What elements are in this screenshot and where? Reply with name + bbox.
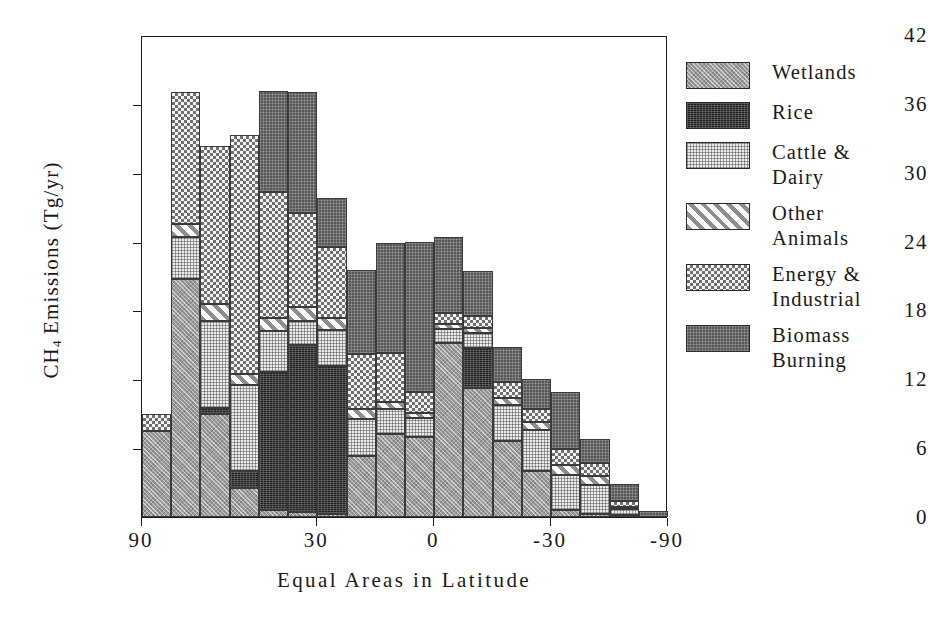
bar-segment-other — [317, 318, 346, 329]
bar-segment-wetlands — [376, 434, 405, 517]
bar-segment-energy — [463, 316, 492, 327]
bar-segment-wetlands — [288, 512, 317, 517]
bar-segment-cattle — [288, 321, 317, 345]
bar-segment-other — [551, 465, 580, 474]
x-axis-tick — [316, 518, 317, 526]
bar-stack — [580, 439, 609, 517]
bar-segment-wetlands — [434, 343, 463, 517]
bar-segment-energy — [434, 313, 463, 324]
bar-stack — [288, 92, 317, 517]
chart-root: CH4 Emissions (Tg/yr) 06121824303642 903… — [0, 0, 928, 620]
bar-segment-cattle — [493, 405, 522, 442]
bar-segment-other — [463, 328, 492, 334]
bar-segment-cattle — [230, 385, 259, 471]
bar-segment-biomass — [317, 198, 346, 247]
bar-segment-biomass — [610, 484, 639, 501]
bar-segment-biomass — [434, 237, 463, 313]
bar-segment-cattle — [200, 321, 229, 408]
bar-segment-biomass — [522, 379, 551, 409]
bar-segment-rice — [259, 372, 288, 510]
bar-segment-cattle — [259, 331, 288, 372]
y-axis-title-prefix: CH — [39, 347, 63, 379]
bar-segment-wetlands — [522, 471, 551, 517]
bar-segment-biomass — [580, 439, 609, 463]
bar-segment-wetlands — [610, 515, 639, 517]
bar-segment-energy — [610, 501, 639, 507]
bar-stack — [347, 270, 376, 517]
y-axis-title: CH4 Emissions (Tg/yr) — [39, 90, 69, 450]
bars-container — [142, 37, 666, 517]
biomass-swatch — [686, 325, 750, 352]
legend-item: Wetlands — [686, 60, 922, 89]
bar-stack — [259, 91, 288, 517]
bar-segment-energy — [522, 409, 551, 422]
bar-segment-other — [434, 324, 463, 329]
bar-segment-wetlands — [551, 510, 580, 517]
bar-segment-wetlands — [142, 431, 171, 517]
bar-segment-energy — [317, 247, 346, 318]
bar-stack — [376, 243, 405, 517]
bar-stack — [493, 347, 522, 517]
plot-area — [141, 36, 667, 518]
bar-segment-biomass — [551, 392, 580, 449]
bar-segment-wetlands — [493, 441, 522, 517]
bar-segment-rice — [200, 408, 229, 414]
x-axis-tick-label: 30 — [261, 528, 371, 553]
legend-item-label: Wetlands — [772, 60, 857, 85]
rice-swatch — [686, 102, 750, 129]
bar-segment-cattle — [463, 333, 492, 348]
bar-segment-rice — [317, 366, 346, 514]
cattle-swatch — [686, 142, 750, 169]
x-axis-tick — [667, 518, 668, 526]
bar-segment-other — [347, 409, 376, 419]
bar-stack — [405, 242, 434, 517]
bar-stack — [639, 511, 668, 517]
bar-segment-rice — [463, 348, 492, 388]
x-axis-tick — [433, 518, 434, 526]
bar-segment-wetlands — [230, 488, 259, 517]
legend-item: Cattle &Dairy — [686, 140, 922, 190]
bar-segment-energy — [405, 392, 434, 413]
bar-segment-other — [288, 307, 317, 321]
bar-stack — [551, 392, 580, 517]
legend-item: Rice — [686, 100, 922, 129]
x-axis-tick-label: 0 — [378, 528, 488, 553]
bar-stack — [434, 237, 463, 517]
bar-segment-biomass — [639, 511, 668, 517]
wetlands-swatch — [686, 62, 750, 89]
bar-segment-energy — [171, 92, 200, 224]
bar-segment-energy — [142, 414, 171, 431]
bar-segment-other — [405, 413, 434, 419]
bar-segment-energy — [288, 213, 317, 307]
energy-swatch — [686, 264, 750, 291]
legend-item-label: Cattle &Dairy — [772, 140, 851, 190]
bar-segment-cattle — [434, 329, 463, 343]
bar-stack — [230, 135, 259, 517]
bar-segment-biomass — [288, 92, 317, 213]
bar-stack — [522, 379, 551, 517]
legend: WetlandsRiceCattle &DairyOtherAnimalsEne… — [686, 60, 922, 384]
legend-item-label: Rice — [772, 100, 814, 125]
bar-segment-rice — [288, 345, 317, 513]
bar-segment-wetlands — [200, 414, 229, 517]
other-animals-swatch — [686, 203, 750, 230]
bar-segment-cattle — [522, 430, 551, 471]
bar-segment-other — [230, 374, 259, 385]
bar-stack — [142, 414, 171, 517]
bar-stack — [171, 92, 200, 517]
bar-segment-cattle — [610, 509, 639, 515]
y-axis-tick-label: 42 — [802, 23, 928, 48]
bar-segment-biomass — [259, 91, 288, 192]
bar-segment-energy — [551, 449, 580, 465]
bar-segment-energy — [376, 353, 405, 402]
bar-segment-other — [493, 398, 522, 405]
x-axis-tick — [550, 518, 551, 526]
y-axis-tick-label: 0 — [802, 505, 928, 530]
bar-segment-energy — [347, 354, 376, 409]
bar-segment-cattle — [551, 475, 580, 511]
x-axis-tick-label: 90 — [86, 528, 196, 553]
bar-segment-biomass — [376, 243, 405, 353]
bar-stack — [463, 271, 492, 517]
legend-item: Energy &Industrial — [686, 262, 922, 312]
bar-segment-cattle — [317, 330, 346, 366]
